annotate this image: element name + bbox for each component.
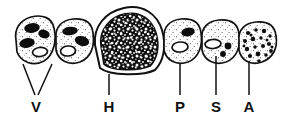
granule	[268, 34, 271, 37]
open-vacuole	[32, 47, 48, 58]
granule	[257, 59, 260, 62]
cell-v2	[56, 19, 94, 63]
dark-granule	[225, 43, 232, 50]
open-vacuole	[205, 39, 222, 49]
granule	[250, 34, 253, 37]
cell-a	[239, 22, 277, 63]
granule	[262, 29, 266, 33]
granule	[243, 39, 247, 43]
cell-diagram-figure: V H P S A	[0, 0, 285, 120]
granule	[246, 31, 250, 35]
granule	[266, 39, 269, 42]
granule	[254, 28, 258, 32]
open-vacuole	[60, 45, 76, 56]
diagram-canvas: V H P S A	[0, 0, 285, 120]
label-v: V	[31, 98, 41, 115]
label-a: A	[244, 98, 255, 115]
cell-p	[164, 19, 202, 63]
granule	[245, 47, 249, 51]
cell-h	[95, 7, 167, 76]
granule	[253, 45, 257, 49]
label-p: P	[175, 98, 185, 115]
granule	[269, 49, 273, 53]
cell-s	[202, 20, 240, 63]
granule	[271, 46, 274, 49]
label-s: S	[211, 98, 221, 115]
open-vacuole	[172, 41, 189, 52]
cell-p-membrane	[164, 19, 202, 63]
granule	[264, 53, 268, 57]
granule	[259, 36, 262, 39]
granule	[261, 44, 265, 48]
granule	[267, 42, 271, 46]
granule	[243, 45, 246, 48]
dark-granule	[220, 51, 226, 57]
granule	[251, 37, 256, 42]
granule	[256, 52, 261, 57]
granule	[248, 54, 252, 58]
cell-v1	[16, 16, 55, 64]
label-h: H	[104, 98, 115, 115]
